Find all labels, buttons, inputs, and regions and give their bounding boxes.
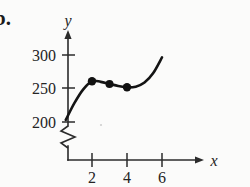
x-axis-arrow-icon bbox=[195, 156, 204, 163]
coordinate-plot: 300 250 200 y 2 4 6 x bbox=[0, 0, 250, 187]
y-axis-label: y bbox=[62, 12, 72, 30]
y-tick-label-200: 200 bbox=[32, 114, 56, 131]
x-tick-label-4: 4 bbox=[123, 169, 131, 186]
axis-break-zigzag-icon bbox=[61, 126, 75, 148]
x-axis bbox=[68, 156, 204, 163]
y-tick-label-250: 250 bbox=[32, 80, 56, 97]
data-point bbox=[106, 80, 114, 88]
y-axis bbox=[61, 30, 75, 160]
x-axis-label: x bbox=[209, 152, 217, 169]
x-tick-label-6: 6 bbox=[158, 169, 166, 186]
y-tick-label-300: 300 bbox=[32, 47, 56, 64]
paper-speck bbox=[100, 124, 102, 126]
data-point bbox=[88, 77, 96, 85]
data-point bbox=[123, 83, 131, 91]
data-points bbox=[88, 77, 131, 92]
data-curve bbox=[66, 57, 162, 120]
x-tick-label-2: 2 bbox=[88, 169, 96, 186]
y-axis-arrow-icon bbox=[64, 30, 71, 39]
graph-figure: b. 300 250 200 y bbox=[0, 0, 250, 187]
